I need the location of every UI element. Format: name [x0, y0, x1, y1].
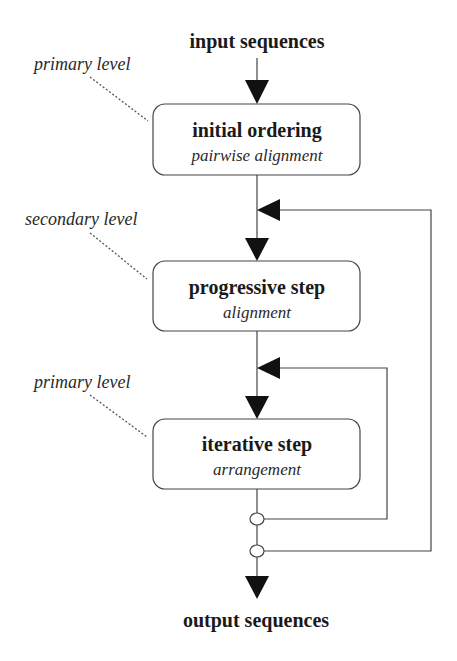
arrow-left-icon	[257, 357, 280, 379]
level-label: primary level	[32, 54, 130, 74]
input-sequences-label: input sequences	[189, 30, 324, 53]
arrow-down-icon	[245, 576, 269, 599]
arrow-left-icon	[257, 199, 280, 221]
level-leader-line	[90, 233, 147, 279]
arrow-down-icon	[245, 396, 269, 419]
output-sequences-label: output sequences	[183, 609, 329, 632]
level-label: secondary level	[25, 209, 137, 229]
junction-circle-icon	[250, 545, 264, 557]
level-leader-line	[90, 77, 148, 121]
arrow-down-icon	[245, 80, 269, 104]
arrow-down-icon	[245, 238, 269, 261]
step-iterative-step: iterative step arrangement	[153, 419, 360, 489]
level-label: primary level	[32, 372, 130, 392]
flow-diagram: input sequences initial ordering pairwis…	[0, 0, 457, 661]
step-subtitle: pairwise alignment	[191, 146, 324, 165]
step-subtitle: arrangement	[213, 460, 302, 479]
step-initial-ordering: initial ordering pairwise alignment	[153, 104, 360, 175]
step-title: iterative step	[202, 433, 313, 456]
step-title: initial ordering	[192, 119, 321, 142]
step-subtitle: alignment	[223, 303, 292, 322]
step-progressive-step: progressive step alignment	[153, 261, 360, 331]
step-title: progressive step	[189, 276, 325, 299]
junction-circle-icon	[250, 513, 264, 525]
level-leader-line	[90, 395, 147, 437]
